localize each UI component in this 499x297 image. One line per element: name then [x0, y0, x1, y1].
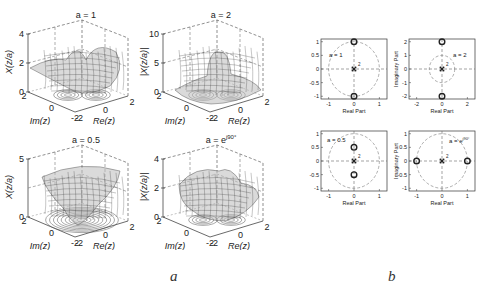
z-tick-label: 5: [19, 154, 24, 164]
z-axis-label: |X(z/a)|: [139, 48, 149, 77]
im-tick-label: 2: [21, 216, 26, 226]
x-axis-label: Real Part: [343, 200, 366, 206]
y-tick-label: 1: [316, 131, 319, 137]
caption-a: a: [170, 268, 178, 285]
y-tick-label: 1: [316, 39, 319, 45]
y-axis-label: Imaginary Part: [393, 143, 399, 179]
x-tick-label: -1: [414, 193, 419, 199]
im-tick-label: 2: [21, 91, 26, 101]
plot-annotation: a = 1: [329, 52, 343, 58]
re-tick-label: -2: [75, 113, 83, 123]
im-axis-label: Im(z): [165, 241, 186, 250]
caption-b: b: [388, 268, 396, 285]
surface-plot-a4: 02420-2-202|X(z/a)|Im(z)Re(z)a = ej90°: [135, 125, 275, 254]
re-axis-label: Re(z): [93, 116, 115, 125]
re-axis-label: Re(z): [93, 241, 115, 250]
z-tick-label: 2: [154, 183, 159, 193]
plot-title: a = ej90°: [206, 134, 237, 145]
pole-zero-plot-b1: -10110.50-0.5-1Real Part2a = 1: [305, 35, 400, 131]
re-tick-label: 2: [264, 97, 269, 107]
re-tick-label: 2: [129, 97, 134, 107]
surface-plot-a2: 051020-2-202|X(z/a)|Im(z)Re(z)a = 2: [135, 0, 275, 129]
x-tick-label: 0: [440, 193, 443, 199]
plot-title: a = 1: [76, 10, 96, 20]
z-axis-label: X(z/a): [4, 50, 14, 75]
re-tick-label: 0: [103, 230, 108, 240]
im-tick-label: 0: [184, 103, 189, 113]
pole-zero-plot-b3: -10110.50-0.5-1Real Part2a = 0.5: [305, 127, 400, 223]
y-tick-label: -0.5: [310, 80, 319, 86]
y-tick-label: 1: [404, 131, 407, 137]
y-tick-label: -1: [402, 185, 407, 191]
x-tick-label: 0: [352, 193, 355, 199]
re-axis-label: Re(z): [228, 116, 250, 125]
y-axis-label: Imaginary Part: [393, 51, 399, 87]
z-tick-label: 5: [154, 58, 159, 68]
x-tick-label: 1: [466, 193, 469, 199]
z-tick-label: 2: [19, 58, 24, 68]
plot-title: a = 0.5: [72, 135, 100, 145]
pole-zero-plot-b2: -202210-1-2Real PartImaginary Part2a = 2: [393, 35, 488, 131]
z-axis-label: X(z/a): [4, 175, 14, 200]
re-tick-label: 0: [238, 230, 243, 240]
im-tick-label: 2: [156, 91, 161, 101]
re-tick-label: -2: [210, 238, 218, 248]
im-axis-label: Im(z): [30, 241, 51, 250]
x-tick-label: -1: [326, 101, 331, 107]
x-axis-label: Real Part: [343, 108, 366, 114]
z-tick-label: 4: [19, 29, 24, 39]
x-tick-label: 0: [440, 101, 443, 107]
y-tick-label: 0: [316, 66, 319, 72]
plot-annotation: a = 0.5: [327, 137, 346, 143]
y-tick-label: 0.5: [311, 52, 319, 58]
z-axis-label: |X(z/a)|: [139, 173, 149, 202]
x-tick-label: 1: [378, 193, 381, 199]
re-tick-label: -2: [75, 238, 83, 248]
re-tick-label: -2: [210, 113, 218, 123]
im-axis-label: Im(z): [165, 116, 186, 125]
re-tick-label: 2: [129, 222, 134, 232]
y-tick-label: -1: [314, 185, 319, 191]
im-tick-label: 0: [49, 103, 54, 113]
y-tick-label: 0: [404, 66, 407, 72]
x-tick-label: 2: [466, 101, 469, 107]
x-tick-label: -2: [414, 101, 419, 107]
im-tick-label: 0: [184, 228, 189, 238]
x-tick-label: 1: [378, 101, 381, 107]
surface-plot-a3: 0520-2-202X(z/a)Im(z)Re(z)a = 0.5: [0, 125, 140, 254]
surface-plot-a1: 02420-2-202X(z/a)Im(z)Re(z)a = 1: [0, 0, 140, 129]
im-axis-label: Im(z): [30, 116, 51, 125]
re-tick-label: 2: [264, 222, 269, 232]
y-tick-label: -2: [402, 93, 407, 99]
y-tick-label: -1: [314, 93, 319, 99]
x-tick-label: -1: [326, 193, 331, 199]
y-tick-label: 0: [316, 158, 319, 164]
z-tick-label: 4: [154, 154, 159, 164]
plot-title: a = 2: [211, 10, 231, 20]
y-tick-label: 1: [404, 52, 407, 58]
y-tick-label: -1: [402, 80, 407, 86]
re-axis-label: Re(z): [228, 241, 250, 250]
y-tick-label: -0.5: [310, 172, 319, 178]
y-tick-label: 0: [404, 158, 407, 164]
x-axis-label: Real Part: [431, 108, 454, 114]
y-tick-label: 0.5: [399, 144, 407, 150]
z-tick-label: 10: [149, 29, 159, 39]
im-tick-label: 0: [49, 228, 54, 238]
re-tick-label: 0: [238, 105, 243, 115]
y-tick-label: 2: [404, 39, 407, 45]
re-tick-label: 0: [103, 105, 108, 115]
x-tick-label: 0: [352, 101, 355, 107]
y-tick-label: 0.5: [311, 144, 319, 150]
pole-zero-plot-b4: -10110.50-0.5-1Real PartImaginary Part2a…: [393, 127, 488, 223]
plot-annotation: a = 2: [453, 52, 467, 58]
x-axis-label: Real Part: [431, 200, 454, 206]
im-tick-label: 2: [156, 216, 161, 226]
